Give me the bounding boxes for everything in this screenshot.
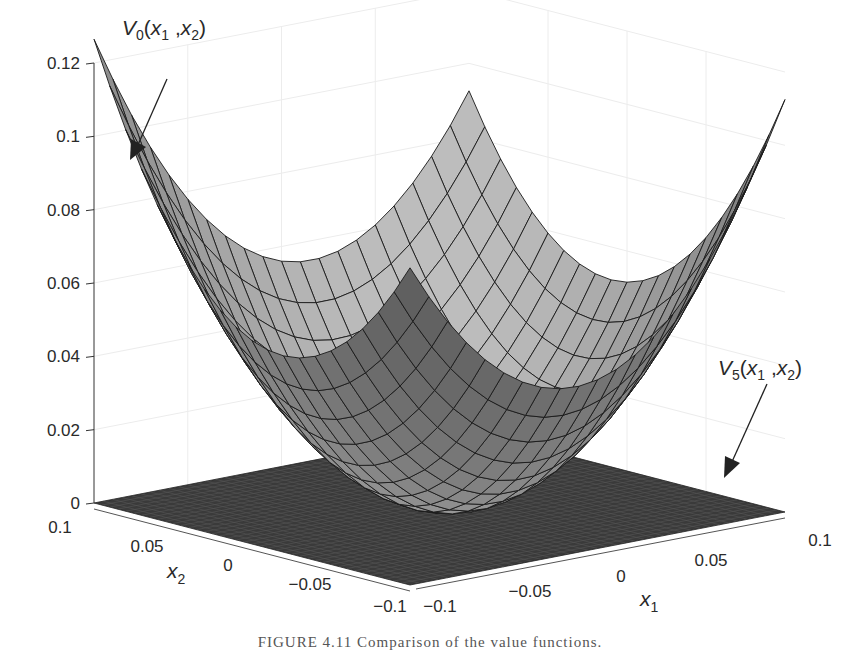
x2-axis-label: x2 [166,559,186,587]
svg-text:0.02: 0.02 [47,421,80,440]
v5-arrow-line [731,384,767,464]
svg-text:0: 0 [223,556,232,575]
svg-text:0.06: 0.06 [47,274,80,293]
svg-text:0: 0 [71,494,80,513]
v0-arrow-line [137,79,167,147]
figure-caption: FIGURE 4.11 Comparison of the value func… [0,634,860,651]
x1-axis-label: x1 [639,587,659,615]
z-axis-ticks: 00.020.040.060.080.10.12 [47,54,94,513]
v0-bowl-surface [94,39,785,514]
v5-label: V5(x1 ,x2) [718,356,802,383]
svg-text:−0.05: −0.05 [508,582,551,601]
svg-text:−0.1: −0.1 [373,597,407,616]
svg-text:0: 0 [616,567,625,586]
svg-text:0.05: 0.05 [130,537,163,556]
svg-text:−0.1: −0.1 [423,597,457,616]
svg-text:0.1: 0.1 [48,518,72,537]
svg-text:−0.05: −0.05 [288,575,331,594]
svg-text:0.08: 0.08 [47,201,80,220]
svg-text:0.04: 0.04 [47,347,80,366]
svg-text:0.1: 0.1 [808,531,832,550]
svg-text:0.1: 0.1 [56,127,80,146]
v5-annotation: V5(x1 ,x2) [718,356,802,478]
v5-arrowhead-icon [724,456,740,478]
svg-text:0.12: 0.12 [47,54,80,73]
v0-label: V0(x1 ,x2) [122,16,206,43]
svg-text:0.05: 0.05 [694,551,727,570]
